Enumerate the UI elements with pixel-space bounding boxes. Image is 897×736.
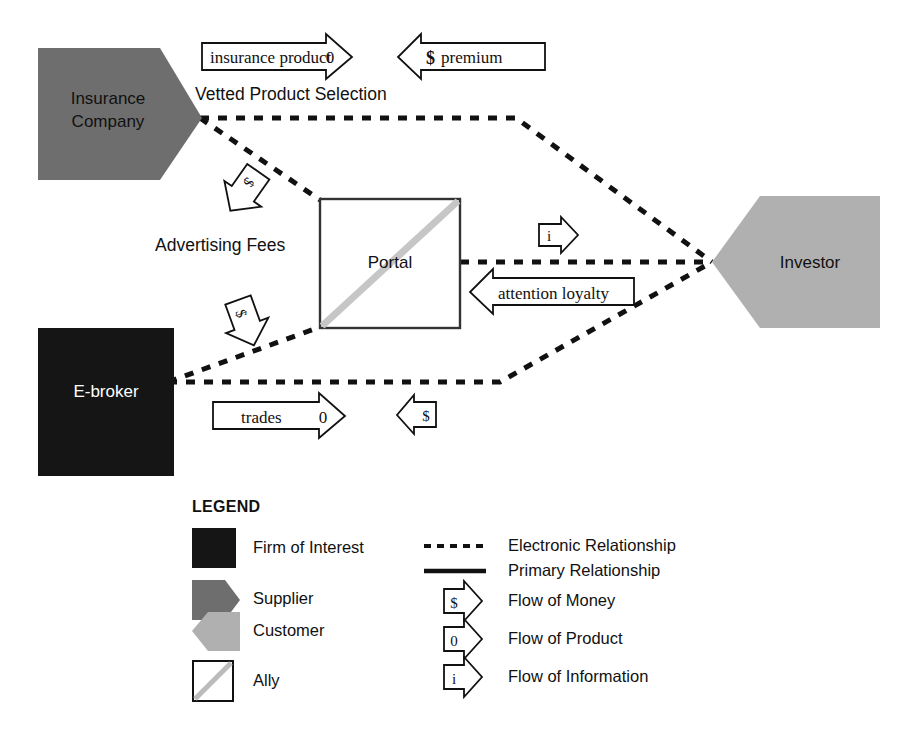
- legend-label-ally: Ally: [253, 671, 280, 690]
- legend-label-flow-of-information: Flow of Information: [508, 667, 648, 686]
- legend-label-firm-of-interest: Firm of Interest: [253, 538, 364, 557]
- svg-text:$: $: [450, 595, 458, 611]
- legend-swatch-firm-of-interest: [192, 528, 236, 568]
- svg-text:premium: premium: [441, 48, 502, 67]
- legend-label-primary-relationship: Primary Relationship: [508, 561, 660, 580]
- legend-label-customer: Customer: [253, 621, 325, 640]
- svg-text:0: 0: [450, 633, 458, 649]
- svg-text:i: i: [452, 671, 456, 687]
- svg-text:$: $: [426, 48, 435, 68]
- flow-arrow-attention-loyalty: attention loyalty: [470, 269, 634, 314]
- legend-label-flow-of-product: Flow of Product: [508, 629, 623, 648]
- edge-label-vetted-product-selection: Vetted Product Selection: [195, 84, 387, 105]
- legend-swatch-flow-of-information: i: [444, 657, 482, 697]
- diagram-svg: insurance product 0 $ premium $ $ i atte…: [0, 0, 897, 736]
- svg-text:$: $: [422, 408, 430, 424]
- flow-arrow-trades-money: $: [397, 395, 436, 434]
- edge-label-advertising-fees: Advertising Fees: [155, 235, 285, 256]
- legend-swatch-flow-of-product: 0: [444, 619, 482, 659]
- legend-label-supplier: Supplier: [253, 589, 314, 608]
- node-investor[interactable]: [712, 196, 880, 328]
- svg-text:0: 0: [319, 408, 328, 427]
- node-e-broker[interactable]: [38, 328, 174, 476]
- svg-text:trades: trades: [241, 408, 282, 427]
- flow-arrow-trades: trades 0: [213, 393, 345, 438]
- legend-title: LEGEND: [192, 498, 260, 516]
- flow-arrow-premium: $ premium: [398, 34, 545, 79]
- legend-swatch-ally: [193, 661, 233, 701]
- flow-arrow-money-advertising-top: $: [212, 159, 276, 224]
- flow-arrow-information: i: [539, 217, 578, 253]
- svg-text:0: 0: [326, 48, 335, 67]
- svg-text:i: i: [547, 228, 551, 244]
- diagram-canvas: insurance product 0 $ premium $ $ i atte…: [0, 0, 897, 736]
- legend-swatch-flow-of-money: $: [444, 581, 482, 621]
- node-insurance-company[interactable]: [38, 48, 202, 180]
- svg-text:attention loyalty: attention loyalty: [498, 284, 609, 303]
- node-portal[interactable]: [320, 199, 460, 328]
- flow-arrow-insurance-product: insurance product 0: [202, 34, 352, 79]
- legend-label-electronic-relationship: Electronic Relationship: [508, 536, 676, 555]
- legend-label-flow-of-money: Flow of Money: [508, 591, 615, 610]
- svg-text:insurance product: insurance product: [210, 48, 332, 67]
- flow-arrow-money-advertising-bottom: $: [217, 292, 276, 352]
